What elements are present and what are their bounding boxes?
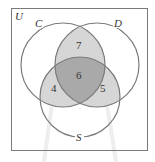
- universe-label: U: [15, 10, 24, 22]
- region-value-c-and-d: 7: [76, 39, 82, 51]
- region-value-c-d-s: 6: [76, 69, 82, 81]
- set-label-c: C: [35, 17, 43, 29]
- region-value-d-and-s: 5: [100, 82, 106, 94]
- pointer-line-right: [107, 104, 116, 162]
- region-value-c-and-s: 4: [51, 82, 57, 94]
- set-label-s: S: [76, 131, 82, 143]
- pointer-line-left: [44, 104, 52, 162]
- venn-diagram: U C D S 7 6 4 5: [0, 0, 155, 162]
- set-label-d: D: [113, 17, 122, 29]
